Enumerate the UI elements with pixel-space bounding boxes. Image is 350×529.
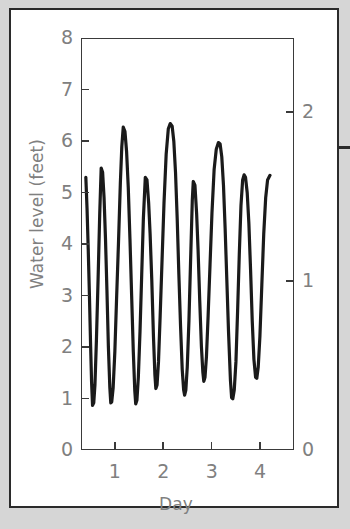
y-tick-label-left-7: 7 bbox=[47, 80, 73, 99]
x-tick-label-1: 1 bbox=[102, 462, 128, 481]
y-tick-label-left-6: 6 bbox=[47, 131, 73, 150]
y-tick-mark-left-6 bbox=[81, 140, 89, 142]
y-tick-label-left-2: 2 bbox=[47, 337, 73, 356]
y-tick-label-right-0: 0 bbox=[302, 440, 328, 459]
edge-rule-mark bbox=[339, 146, 350, 149]
y-tick-label-left-0: 0 bbox=[47, 440, 73, 459]
plot-area bbox=[81, 38, 294, 450]
y-tick-mark-left-5 bbox=[81, 192, 89, 194]
y-tick-label-left-8: 8 bbox=[47, 28, 73, 47]
y-tick-mark-left-4 bbox=[81, 243, 89, 245]
x-tick-mark-4 bbox=[259, 442, 261, 450]
x-tick-label-4: 4 bbox=[247, 462, 273, 481]
x-tick-mark-3 bbox=[211, 442, 213, 450]
y-tick-mark-left-2 bbox=[81, 346, 89, 348]
y-tick-mark-right-1 bbox=[286, 280, 294, 282]
y-tick-mark-right-2 bbox=[286, 111, 294, 113]
y-tick-mark-left-7 bbox=[81, 89, 89, 91]
y-tick-mark-left-3 bbox=[81, 295, 89, 297]
y-tick-label-right-1: 1 bbox=[302, 271, 328, 290]
figure-panel: Savannah River Entrance Water level (fee… bbox=[9, 8, 339, 508]
y-tick-label-left-1: 1 bbox=[47, 389, 73, 408]
x-axis-title: Day bbox=[11, 494, 341, 514]
y-tick-label-left-3: 3 bbox=[47, 286, 73, 305]
x-tick-mark-1 bbox=[114, 442, 116, 450]
x-tick-label-3: 3 bbox=[199, 462, 225, 481]
x-tick-mark-2 bbox=[162, 442, 164, 450]
y-tick-mark-left-1 bbox=[81, 398, 89, 400]
y-tick-label-left-5: 5 bbox=[47, 183, 73, 202]
y-axis-left-title: Water level (feet) bbox=[27, 114, 47, 314]
x-tick-label-2: 2 bbox=[150, 462, 176, 481]
y-tick-label-right-2: 2 bbox=[302, 102, 328, 121]
tide-curve bbox=[82, 39, 293, 449]
y-tick-label-left-4: 4 bbox=[47, 234, 73, 253]
